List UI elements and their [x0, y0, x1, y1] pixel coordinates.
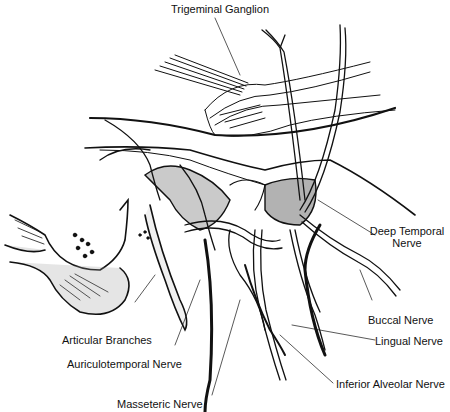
label-deep-temporal-nerve-line2: Nerve	[367, 237, 447, 249]
label-deep-temporal-nerve-line1: Deep Temporal	[367, 225, 447, 237]
label-trigeminal-ganglion: Trigeminal Ganglion	[171, 3, 269, 15]
label-lingual-nerve: Lingual Nerve	[375, 335, 443, 347]
nerve-trunks	[100, 25, 400, 380]
trigeminal-ganglion-drawing	[155, 55, 395, 136]
mandible-fragment-drawing	[5, 200, 129, 314]
label-deep-temporal-nerve: Deep Temporal Nerve	[367, 225, 447, 249]
label-articular-branches: Articular Branches	[62, 334, 152, 346]
nerve-illustration	[0, 0, 450, 412]
anatomy-diagram: Trigeminal Ganglion Deep Temporal Nerve …	[0, 0, 450, 412]
label-auriculotemporal-nerve: Auriculotemporal Nerve	[67, 358, 182, 370]
label-buccal-nerve: Buccal Nerve	[368, 314, 433, 326]
label-inferior-alveolar-nerve: Inferior Alveolar Nerve	[336, 378, 445, 390]
label-masseteric-nerve: Masseteric Nerve	[117, 398, 203, 410]
